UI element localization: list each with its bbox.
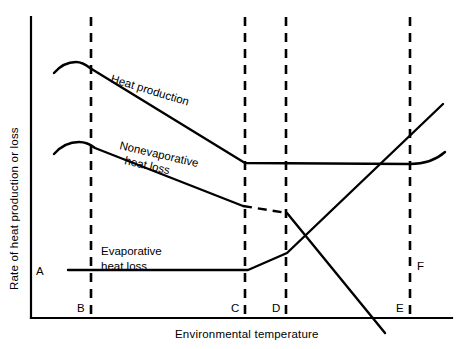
marker-label-a: A <box>36 265 44 277</box>
x-axis-title: Environmental temperature <box>175 328 319 340</box>
marker-label-e: E <box>396 302 404 314</box>
thermoregulation-line-chart: Heat production Nonevaporative heat loss… <box>0 0 458 349</box>
chart-container: Heat production Nonevaporative heat loss… <box>0 0 458 349</box>
chart-axes <box>31 17 452 318</box>
marker-label-f: F <box>417 260 424 272</box>
evaporative-label-line2: heat loss <box>101 260 147 272</box>
marker-label-d: D <box>272 302 280 314</box>
nonevaporative-curve-right <box>287 213 385 333</box>
marker-label-c: C <box>231 302 239 314</box>
evaporative-label-line1: Evaporative <box>101 245 162 257</box>
y-axis-title: Rate of heat production or loss <box>8 127 20 290</box>
marker-label-b: B <box>77 302 85 314</box>
nonevaporative-curve-dashed-segment <box>243 206 287 213</box>
series-nonevaporative-heat-loss <box>54 142 385 333</box>
heat-production-label: Heat production <box>109 72 190 107</box>
series-label-heat-production: Heat production <box>109 72 190 107</box>
series-label-evaporative: Evaporative heat loss <box>101 245 162 272</box>
series-label-nonevaporative: Nonevaporative heat loss <box>119 139 200 176</box>
marker-labels: A B C D E F <box>36 260 424 314</box>
